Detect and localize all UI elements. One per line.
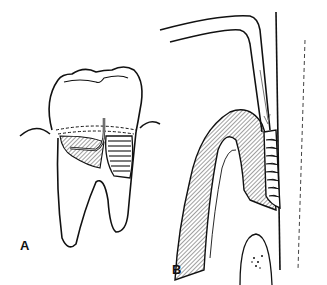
dental-illustration bbox=[0, 0, 327, 285]
calculus-deposit-a bbox=[106, 136, 133, 178]
panel-label-b: B bbox=[172, 262, 181, 277]
furcation-shading bbox=[60, 136, 104, 168]
panel-b-pocket bbox=[160, 12, 305, 285]
panel-label-a: A bbox=[20, 238, 29, 253]
